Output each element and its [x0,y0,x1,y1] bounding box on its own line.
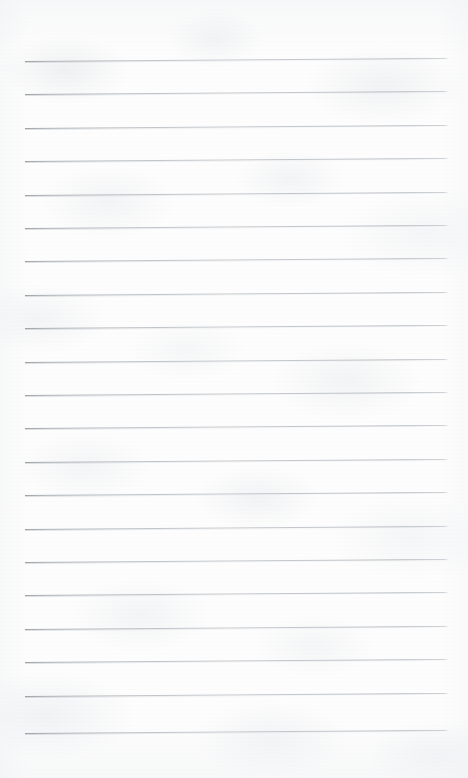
scanned-page [0,0,468,778]
paper-background [0,0,468,778]
